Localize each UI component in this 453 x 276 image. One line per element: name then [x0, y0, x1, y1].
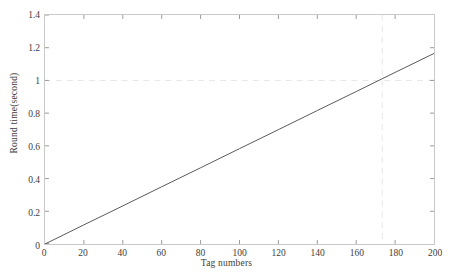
plot-canvas [45, 15, 434, 244]
x-axis-ticks [84, 15, 395, 244]
data-series-round-time [45, 53, 434, 244]
plot-area [44, 14, 435, 245]
y-axis-title: Round time(second) [9, 53, 19, 173]
y-axis-title-holder: Round time(second) [2, 0, 22, 276]
x-axis-title: Tag numbers [0, 258, 453, 268]
chart-figure: 1.4 1.2 1 0.8 0.6 0.4 0.2 0 0 20 40 60 8… [0, 0, 453, 276]
y-axis-ticks [45, 15, 434, 244]
